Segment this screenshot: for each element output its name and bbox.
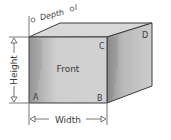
corner-c-label: C — [99, 42, 105, 51]
corner-d-label: D — [142, 31, 148, 40]
arrow-down-icon — [11, 97, 17, 102]
height-label: Height — [9, 55, 19, 85]
corner-a-label: A — [33, 93, 39, 102]
arrow-right-icon — [101, 116, 106, 122]
arrow-up-icon — [11, 38, 17, 43]
arrow-right-icon — [70, 7, 74, 11]
corner-b-label: B — [97, 94, 103, 103]
arrow-left-icon — [31, 18, 35, 22]
arrow-left-icon — [30, 116, 35, 122]
depth-label: Depth — [39, 8, 65, 23]
box-diagram: Height Width Depth A B C D Front — [0, 0, 171, 140]
width-label: Width — [55, 115, 81, 125]
front-face-label: Front — [57, 64, 80, 74]
